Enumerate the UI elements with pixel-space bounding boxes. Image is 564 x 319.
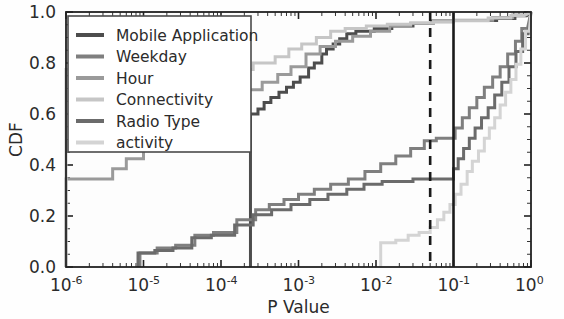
x-tick-label: 10-4: [205, 274, 238, 295]
legend-label-mobile-application: Mobile Application: [116, 27, 258, 45]
y-tick-label: 1.0: [29, 2, 56, 22]
x-tick-label: 10-5: [128, 274, 161, 295]
x-tick-label: 10-6: [50, 274, 83, 295]
y-tick-label: 0.8: [29, 53, 56, 73]
x-tick-label: 10-1: [438, 274, 471, 295]
legend-label-radio-type: Radio Type: [116, 113, 200, 131]
cdf-chart-svg: 10-610-510-410-310-210-11000.00.20.40.60…: [0, 0, 564, 319]
x-tick-label: 10-3: [283, 274, 316, 295]
x-tick-label: 10-2: [360, 274, 393, 295]
legend-label-weekday: Weekday: [116, 48, 187, 66]
legend-label-connectivity: Connectivity: [116, 91, 213, 109]
x-axis-label: P Value: [267, 297, 329, 317]
legend-label-activity: activity: [116, 134, 173, 152]
y-tick-label: 0.2: [29, 206, 56, 226]
legend-label-hour: Hour: [116, 70, 154, 88]
y-tick-label: 0.6: [29, 104, 56, 124]
chart-figure: 10-610-510-410-310-210-11000.00.20.40.60…: [0, 0, 564, 319]
y-tick-label: 0.0: [29, 257, 56, 277]
y-tick-label: 0.4: [29, 155, 56, 175]
x-tick-label: 100: [515, 274, 544, 295]
y-axis-label: CDF: [6, 122, 26, 157]
